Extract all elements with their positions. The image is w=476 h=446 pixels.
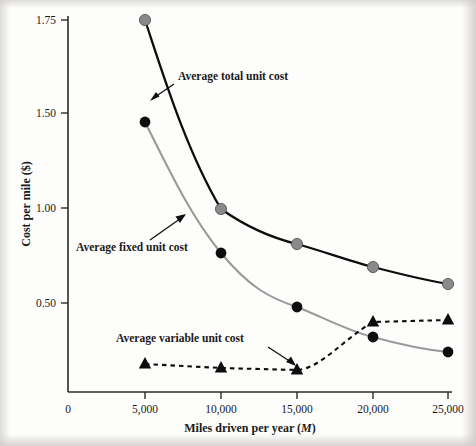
x-axis-title: Miles driven per year (M): [184, 421, 316, 435]
total-cost-point-25000: [442, 278, 453, 289]
total-cost-point-20000: [367, 261, 378, 272]
x-axis-title-close: ): [312, 421, 316, 435]
x-tick-label-20000: 20,000: [357, 403, 389, 416]
variable-cost-point-25000: [442, 313, 454, 325]
y-axis-ticks: 1.75 1.50 1.00 0.50: [36, 14, 68, 309]
fixed-cost-point-10000: [216, 248, 227, 259]
total-cost-point-15000: [291, 238, 302, 249]
annotation-label-fixed: Average fixed unit cost: [76, 241, 188, 254]
annotation-label-total: Average total unit cost: [178, 70, 288, 83]
fixed-cost-point-20000: [368, 332, 379, 343]
x-tick-label-25000: 25,000: [432, 403, 464, 416]
total-cost-point-10000: [215, 203, 226, 214]
y-tick-label-0.50: 0.50: [36, 297, 56, 309]
fixed-cost-point-25000: [443, 347, 454, 358]
x-tick-label-5000: 5,000: [132, 403, 158, 416]
x-axis-ticks: 0 5,000 10,000 15,000 20,000 25,000: [65, 392, 464, 416]
annotation-arrow-head-total: [150, 92, 160, 101]
fixed-cost-line: [145, 122, 448, 352]
fixed-cost-point-5000: [140, 117, 151, 128]
variable-cost-point-5000: [139, 357, 151, 369]
x-axis-title-main: Miles driven per year (: [184, 421, 301, 435]
svg-text:Miles driven per year (M): Miles driven per year (M): [184, 421, 316, 435]
x-tick-label-10000: 10,000: [205, 403, 237, 416]
annotation-arrow-head-fixed: [176, 214, 187, 223]
total-cost-point-5000: [139, 14, 150, 25]
fixed-cost-point-15000: [292, 302, 303, 313]
y-tick-label-1.75: 1.75: [36, 14, 56, 26]
y-axis-title: Cost per mile ($): [19, 161, 33, 246]
variable-cost-point-20000: [367, 315, 379, 327]
x-tick-label-0: 0: [65, 403, 71, 415]
y-tick-label-1.50: 1.50: [36, 107, 56, 119]
annotation-label-variable: Average variable unit cost: [116, 332, 244, 345]
chart-figure: 1.75 1.50 1.00 0.50 0 5,000 10,000 15,00…: [0, 0, 476, 446]
y-tick-label-1.00: 1.00: [36, 202, 56, 214]
annotation-arrow-head-variable: [286, 357, 296, 367]
cost-per-mile-line-chart: 1.75 1.50 1.00 0.50 0 5,000 10,000 15,00…: [0, 0, 476, 446]
x-tick-label-15000: 15,000: [281, 403, 313, 416]
annotation-average-fixed-unit-cost: Average fixed unit cost: [76, 214, 188, 254]
x-axis-title-variable: M: [300, 421, 312, 435]
